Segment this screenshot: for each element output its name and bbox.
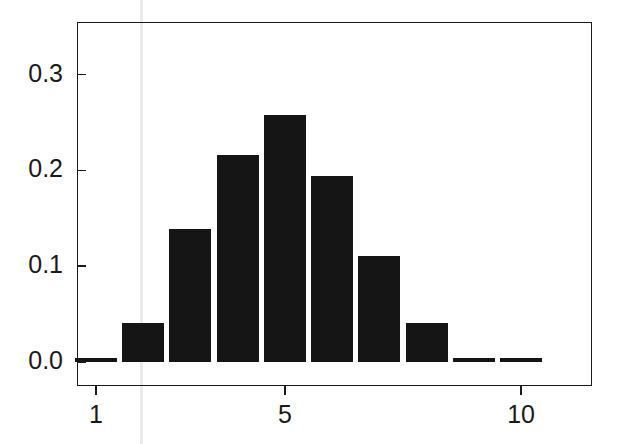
y-tick-label: 0.3 — [0, 59, 63, 88]
bar — [122, 323, 164, 362]
x-tick-label: 10 — [481, 400, 561, 429]
y-tick-label: 0.2 — [0, 154, 63, 183]
y-tick-mark — [77, 361, 86, 363]
bar — [406, 323, 448, 362]
bar — [169, 229, 211, 362]
bar — [311, 176, 353, 362]
y-tick-mark — [77, 265, 86, 267]
bar — [217, 155, 259, 362]
y-tick-mark — [77, 74, 86, 76]
bar — [358, 256, 400, 362]
bar — [264, 115, 306, 362]
x-tick-mark — [520, 386, 522, 395]
y-tick-label: 0.1 — [0, 250, 63, 279]
y-tick-label: 0.0 — [0, 346, 63, 375]
x-tick-mark — [284, 386, 286, 395]
histogram-figure: 0.00.10.20.3 1510 — [0, 0, 625, 444]
x-tick-label: 5 — [245, 400, 325, 429]
bar — [500, 358, 542, 362]
x-tick-mark — [95, 386, 97, 395]
y-tick-mark — [77, 170, 86, 172]
x-tick-label: 1 — [56, 400, 136, 429]
plot-area — [77, 22, 592, 386]
bar — [453, 358, 495, 362]
